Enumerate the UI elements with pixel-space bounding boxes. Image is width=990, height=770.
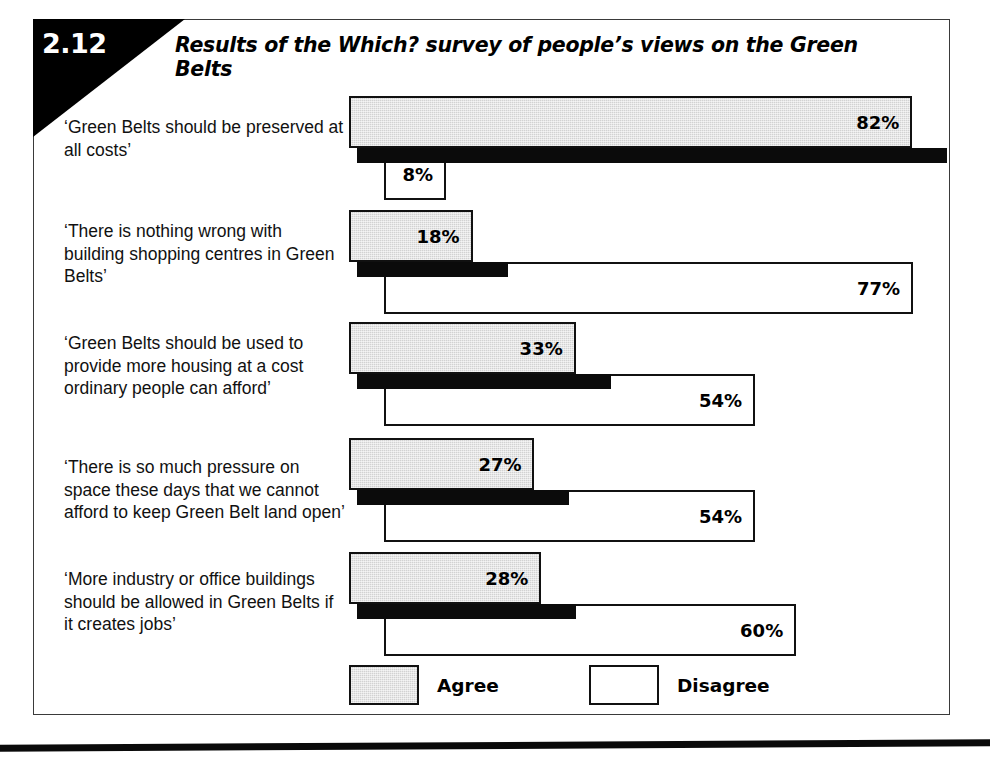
- statement-label: ‘More industry or office buildings shoul…: [64, 568, 346, 636]
- legend-entry-agree: Agree: [349, 665, 499, 705]
- bar-shadow: [357, 262, 508, 277]
- legend-label-disagree: Disagree: [677, 675, 770, 696]
- bar-value-agree: 82%: [856, 112, 910, 133]
- bar-shadow: [357, 490, 569, 505]
- bar-shadow: [357, 374, 611, 389]
- bar-shadow: [357, 148, 947, 163]
- bar-value-agree: 18%: [417, 226, 471, 247]
- bar-value-disagree: 54%: [699, 390, 753, 411]
- page-bottom-rule-highlight: [0, 752, 990, 753]
- bar-value-disagree: 54%: [699, 506, 753, 527]
- bar-value-disagree: 8%: [402, 164, 444, 185]
- statement-label: ‘Green Belts should be used to provide m…: [64, 332, 346, 400]
- bar-agree: 28%: [349, 552, 541, 604]
- statement-label: ‘There is so much pressure on space thes…: [64, 456, 346, 524]
- bar-value-agree: 28%: [485, 568, 539, 589]
- bar-agree: 27%: [349, 438, 534, 490]
- legend-swatch-disagree: [589, 665, 659, 705]
- chart-plot-area: ‘Green Belts should be preserved at all …: [34, 20, 951, 716]
- bar-value-disagree: 77%: [857, 278, 911, 299]
- bar-agree: 18%: [349, 210, 473, 262]
- legend-swatch-agree: [349, 665, 419, 705]
- bar-value-agree: 33%: [520, 338, 574, 359]
- figure-panel: ‘Green Belts should be preserved at all …: [33, 19, 950, 715]
- chart-title: Results of the Which? survey of people’s…: [175, 33, 905, 81]
- bar-value-agree: 27%: [478, 454, 532, 475]
- legend-label-agree: Agree: [437, 675, 499, 696]
- bar-value-disagree: 60%: [740, 620, 794, 641]
- bar-agree: 82%: [349, 96, 912, 148]
- page-bottom-rule: [0, 739, 990, 752]
- legend-entry-disagree: Disagree: [589, 665, 770, 705]
- bar-agree: 33%: [349, 322, 576, 374]
- statement-label: ‘Green Belts should be preserved at all …: [64, 116, 346, 161]
- figure-number: 2.12: [42, 28, 107, 59]
- statement-label: ‘There is nothing wrong with building sh…: [64, 220, 346, 288]
- bar-shadow: [357, 604, 576, 619]
